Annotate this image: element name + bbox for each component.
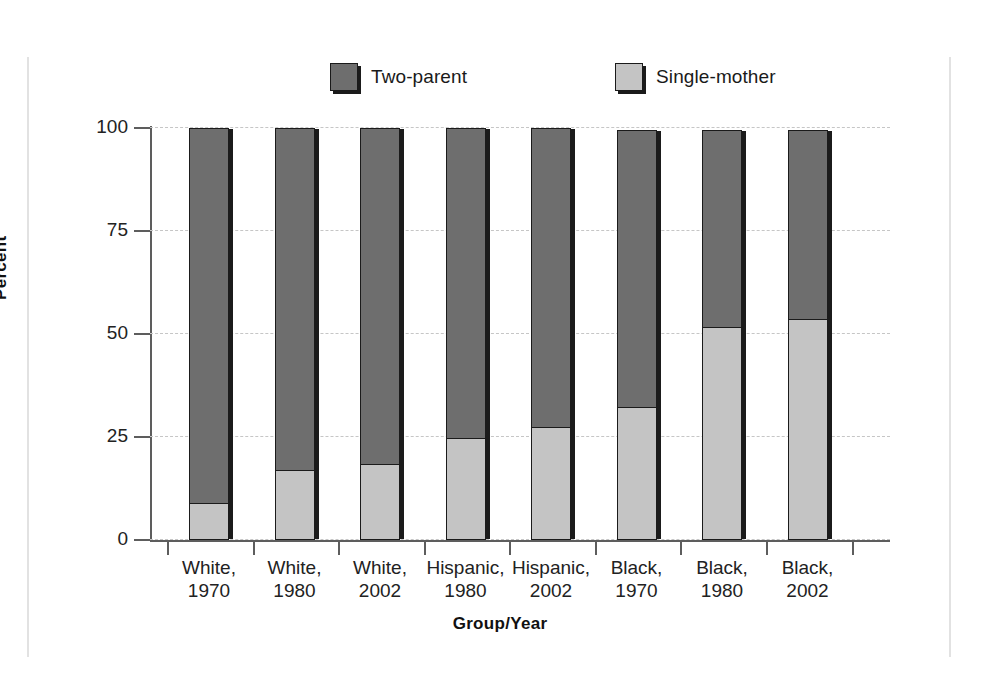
legend-label-two-parent: Two-parent xyxy=(371,66,467,88)
x-tick-mark xyxy=(680,542,682,555)
frame-rule-left xyxy=(27,57,29,657)
bar-segment-single-mother[interactable] xyxy=(447,439,485,539)
x-tick-mark xyxy=(338,542,340,555)
legend-swatch-single-mother xyxy=(615,63,643,91)
bar-segment-two-parent[interactable] xyxy=(789,131,827,320)
bar-segment-single-mother[interactable] xyxy=(703,328,741,539)
x-tick-mark xyxy=(852,542,854,555)
y-tick-label: 100 xyxy=(70,116,128,138)
bar-segment-two-parent[interactable] xyxy=(190,129,228,504)
bar-stack[interactable] xyxy=(360,128,400,540)
y-tick-label: 50 xyxy=(70,322,128,344)
bar-segment-two-parent[interactable] xyxy=(532,129,570,428)
bar-segment-two-parent[interactable] xyxy=(447,129,485,439)
bar-stack[interactable] xyxy=(788,130,828,540)
bar-segment-single-mother[interactable] xyxy=(190,504,228,539)
bar-segment-single-mother[interactable] xyxy=(618,408,656,539)
frame-rule-right xyxy=(949,57,951,657)
x-tick-label-line: Black, xyxy=(748,556,868,579)
x-tick-mark xyxy=(766,542,768,555)
y-tick-mark xyxy=(134,333,150,335)
x-tick-mark xyxy=(167,542,169,555)
bar-stack[interactable] xyxy=(446,128,486,540)
bar-segment-two-parent[interactable] xyxy=(276,129,314,471)
chart-legend: Two-parent Single-mother xyxy=(330,58,750,96)
bar-segment-single-mother[interactable] xyxy=(276,471,314,539)
bar-segment-single-mother[interactable] xyxy=(361,465,399,539)
x-tick-label: Black,2002 xyxy=(748,556,868,602)
y-tick-label: 0 xyxy=(70,528,128,550)
y-tick-mark xyxy=(134,539,150,541)
bar-segment-two-parent[interactable] xyxy=(361,129,399,465)
figure-frame: Two-parent Single-mother Percent 1007550… xyxy=(0,0,1000,682)
y-tick-label: 25 xyxy=(70,425,128,447)
x-axis-line xyxy=(150,540,890,542)
x-tick-mark xyxy=(595,542,597,555)
bar-stack[interactable] xyxy=(189,128,229,540)
y-tick-label: 75 xyxy=(70,219,128,241)
legend-label-single-mother: Single-mother xyxy=(656,66,776,88)
legend-swatch-two-parent xyxy=(330,63,358,91)
bar-segment-single-mother[interactable] xyxy=(789,320,827,539)
bar-segment-two-parent[interactable] xyxy=(618,131,656,408)
y-axis-title: Percent xyxy=(0,236,11,300)
x-tick-label-line: 2002 xyxy=(748,579,868,602)
bar-segment-single-mother[interactable] xyxy=(532,428,570,539)
y-tick-mark xyxy=(134,127,150,129)
legend-entry-two-parent[interactable]: Two-parent xyxy=(330,58,467,96)
bar-stack[interactable] xyxy=(702,130,742,540)
x-tick-mark xyxy=(424,542,426,555)
x-axis-title: Group/Year xyxy=(0,614,1000,634)
legend-entry-single-mother[interactable]: Single-mother xyxy=(615,58,776,96)
bar-segment-two-parent[interactable] xyxy=(703,131,741,328)
bar-stack[interactable] xyxy=(275,128,315,540)
x-tick-mark xyxy=(509,542,511,555)
y-tick-mark xyxy=(134,436,150,438)
plot-area xyxy=(150,128,890,540)
x-tick-mark xyxy=(253,542,255,555)
y-tick-mark xyxy=(134,230,150,232)
bar-stack[interactable] xyxy=(617,130,657,540)
bar-stack[interactable] xyxy=(531,128,571,540)
